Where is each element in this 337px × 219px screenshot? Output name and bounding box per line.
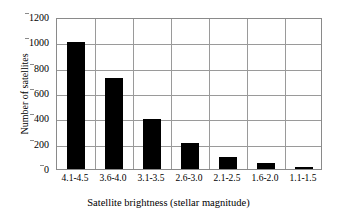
y-tick-label: 400 (34, 114, 49, 124)
y-tick-label: 1000 (29, 38, 49, 48)
x-tick-label: 1.1-1.5 (290, 172, 317, 184)
y-tick-mark (30, 114, 34, 115)
x-axis-title: Satellite brightness (stellar magnitude) (0, 196, 337, 209)
bar (105, 78, 122, 169)
y-tick-label: 600 (34, 89, 49, 99)
bar (181, 143, 198, 169)
y-tick-label: 200 (34, 140, 49, 150)
x-tick-label: 2.1-2.5 (214, 172, 241, 184)
x-tick-label: 4.1-4.5 (62, 172, 89, 184)
bar (219, 157, 236, 169)
x-tick-label: 1.6-2.0 (252, 172, 279, 184)
y-tick-mark (25, 13, 29, 14)
bar (295, 167, 312, 169)
y-tick-mark (40, 165, 44, 166)
bars-layer (57, 19, 321, 169)
y-tick-mark (30, 64, 34, 65)
y-tick-mark (30, 140, 34, 141)
bar (143, 119, 160, 169)
x-tick-label: 3.1-3.5 (138, 172, 165, 184)
x-axis-ticks: 4.1-4.53.6-4.03.1-3.52.6-3.02.1-2.51.6-2… (56, 172, 322, 188)
x-tick-label: 2.6-3.0 (176, 172, 203, 184)
y-tick-label: 800 (34, 64, 49, 74)
bar (67, 42, 84, 169)
y-tick-label: 1200 (29, 13, 49, 23)
bar (257, 163, 274, 169)
y-axis-ticks: 120010008006004002000 (0, 0, 56, 219)
y-tick-label: 0 (44, 165, 49, 175)
y-tick-mark (25, 38, 29, 39)
plot-area (56, 18, 322, 170)
bar-chart: Number of satellites 1200100080060040020… (0, 0, 337, 219)
y-tick-mark (30, 89, 34, 90)
x-tick-label: 3.6-4.0 (100, 172, 127, 184)
